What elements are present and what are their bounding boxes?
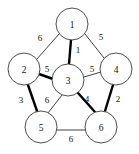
edge-weight-label: 5 [45,64,50,74]
node-label: 1 [70,20,75,30]
graph-edge [69,40,71,64]
graph-node: 2 [8,53,40,85]
edge-weight-label: 3 [19,95,24,105]
edge-weight-label: 4 [85,94,90,104]
graph-node: 5 [25,111,57,143]
node-label: 4 [114,65,119,75]
edge-weight-label: 6 [38,33,43,43]
edge-weight-label: 5 [90,64,95,74]
edge-weight-label: 5 [99,32,104,42]
edge-weight-label: 2 [116,94,121,104]
node-label: 6 [99,123,104,133]
edge-weight-label: 1 [76,45,81,55]
node-label: 3 [66,76,71,86]
node-label: 2 [22,65,27,75]
weighted-graph-figure: 123456 6515536426 [0,0,139,154]
graph-node: 1 [56,8,88,40]
graph-edge [28,85,37,111]
graph-node: 4 [100,53,132,85]
node-label: 5 [39,123,44,133]
graph-node: 3 [52,64,84,96]
nodes-layer: 123456 [8,8,132,143]
edge-weight-label: 6 [69,134,74,144]
graph-canvas: 123456 6515536426 [0,0,139,154]
graph-edge [105,85,113,111]
graph-node: 6 [85,111,117,143]
graph-edge [39,74,53,79]
edge-weight-label: 6 [45,95,50,105]
graph-edge [48,95,62,113]
